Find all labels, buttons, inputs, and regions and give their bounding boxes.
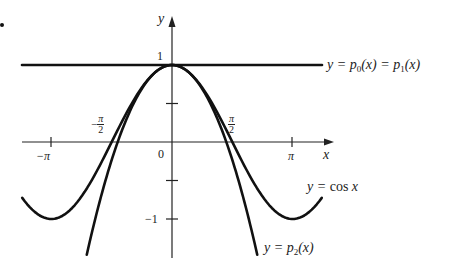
- y-axis-label: y: [158, 12, 164, 26]
- fraction: π2: [228, 114, 235, 135]
- y-tick-label-1: 1: [157, 50, 163, 62]
- label-cos: y = cos x: [307, 180, 358, 194]
- x-axis-arrow-icon: [324, 139, 334, 146]
- y-axis-arrow-icon: [169, 16, 176, 27]
- origin-label: 0: [158, 148, 164, 160]
- taylor-polynomial-plot: [0, 0, 459, 274]
- x-axis-label: x: [323, 148, 329, 162]
- label-p2: y = p2(x): [264, 241, 314, 257]
- label-p0-p1: y = p0(x) = p1(x): [327, 58, 420, 74]
- axes: [22, 22, 330, 258]
- x-tick-label-half-pi: π2: [228, 114, 235, 135]
- x-tick-label-minus-half-pi: −π2: [91, 114, 104, 135]
- fraction: π2: [97, 114, 104, 135]
- x-tick-label-minus-pi: −π: [36, 150, 50, 162]
- x-tick-label-pi: π: [288, 150, 294, 162]
- y-tick-label-minus-1: −1: [145, 213, 158, 225]
